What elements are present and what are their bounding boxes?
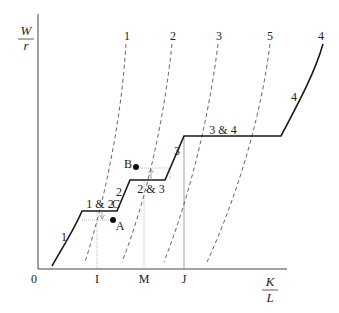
point-C-label: C (112, 197, 120, 211)
origin-label: 0 (31, 272, 37, 286)
segment-label-3: 3 (174, 144, 180, 158)
arrow-up-icon (149, 169, 154, 180)
point-B-marker (133, 164, 139, 170)
y-axis-label-numerator: W (21, 23, 33, 38)
x-tick-J: J (182, 272, 187, 286)
point-B-label: B (124, 157, 132, 171)
y-axis-label-denominator: r (23, 38, 29, 53)
factor-price-diagram: W r K L 0 I M J 1 2 3 5 4 1 1 & 2 2 2 & … (0, 0, 339, 313)
curve-label-5: 5 (267, 29, 273, 43)
curve-label-4: 4 (318, 29, 324, 43)
dashed-curve-3 (164, 44, 218, 262)
dashed-curve-5 (207, 44, 270, 262)
segment-label-4: 4 (291, 90, 297, 104)
segment-label-1: 1 (61, 230, 67, 244)
x-tick-M: M (139, 272, 150, 286)
arrow-down-icon (100, 211, 105, 219)
dashed-curve-2 (122, 44, 172, 262)
solid-path (52, 44, 323, 266)
curve-label-3: 3 (216, 29, 222, 43)
x-axis-label-numerator: K (265, 274, 276, 289)
segment-label-1-and-2: 1 & 2 (86, 197, 113, 211)
curve-label-1: 1 (124, 29, 130, 43)
segment-label-2-and-3: 2 & 3 (137, 182, 164, 196)
curve-label-2: 2 (170, 29, 176, 43)
x-axis-label-denominator: L (265, 290, 273, 305)
x-tick-I: I (95, 272, 99, 286)
segment-label-3-and-4: 3 & 4 (209, 123, 236, 137)
point-A-label: A (116, 219, 125, 233)
